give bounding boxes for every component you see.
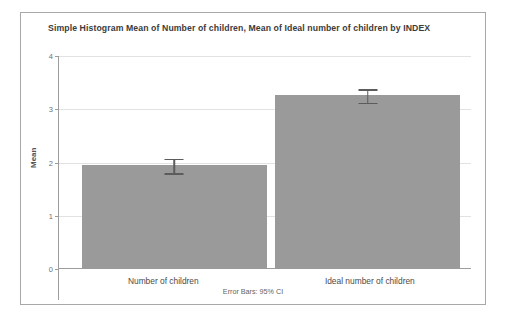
y-tick-label: 3	[49, 105, 53, 114]
x-axis-label-1: Ideal number of children	[325, 276, 415, 286]
chart-frame: Simple Histogram Mean of Number of child…	[20, 12, 486, 305]
y-tick-mark	[55, 56, 58, 57]
chart-footnote: Error Bars: 95% CI	[21, 287, 485, 296]
error-bar-cap-lower	[358, 103, 377, 105]
y-tick-label: 1	[49, 211, 53, 220]
error-bar-cap-lower	[165, 173, 184, 175]
x-axis-label-0: Number of children	[128, 276, 199, 286]
error-bar-line	[367, 89, 369, 103]
y-tick-mark	[55, 269, 58, 270]
error-bar-cap-upper	[165, 159, 184, 161]
error-bar-line	[174, 159, 176, 173]
y-tick-mark	[55, 109, 58, 110]
data-canvas: 01234	[59, 56, 471, 269]
plot-area: 01234 Number of children Ideal number of…	[58, 44, 471, 300]
error-bar-cap-upper	[358, 89, 377, 91]
bar-1[interactable]	[275, 95, 460, 269]
y-tick-mark	[55, 163, 58, 164]
y-tick-label: 4	[49, 52, 53, 61]
y-tick-label: 2	[49, 158, 53, 167]
bar-0[interactable]	[82, 165, 267, 269]
y-axis-title: Mean	[29, 148, 38, 168]
y-tick-label: 0	[49, 265, 53, 274]
gridline-4	[59, 56, 471, 57]
chart-title: Simple Histogram Mean of Number of child…	[48, 23, 468, 33]
y-tick-mark	[55, 216, 58, 217]
